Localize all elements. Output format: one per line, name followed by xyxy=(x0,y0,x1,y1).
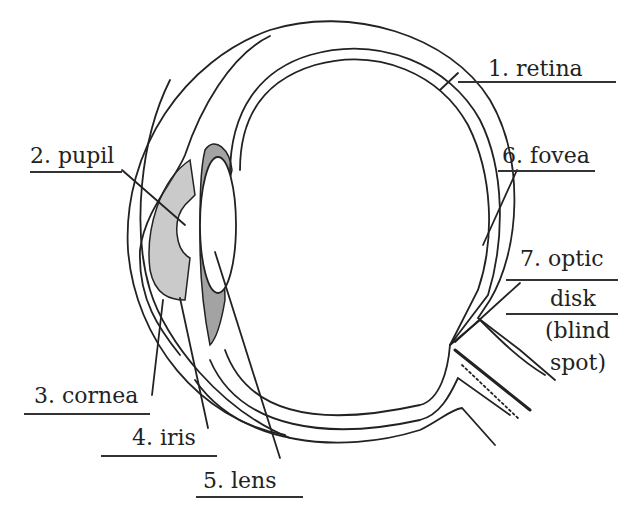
label-fovea: 6. fovea xyxy=(502,145,590,167)
lower-wall-1 xyxy=(225,345,450,415)
underline-optic xyxy=(506,279,618,281)
underline-retina xyxy=(458,81,616,83)
optic-nerve-center xyxy=(455,350,530,410)
label-optic-disk-line4: spot) xyxy=(550,352,606,374)
leader-iris xyxy=(180,298,208,428)
label-cornea: 3. cornea xyxy=(34,385,138,407)
underline-iris xyxy=(101,455,217,457)
label-optic-disk-line3: (blind xyxy=(545,320,610,342)
label-iris: 4. iris xyxy=(132,427,196,449)
iris-shape xyxy=(149,160,195,300)
retina-outer xyxy=(230,49,500,345)
label-pupil: 2. pupil xyxy=(30,145,114,167)
optic-nerve-lower xyxy=(462,365,520,420)
label-retina: 1. retina xyxy=(488,58,583,80)
lower-wall-3 xyxy=(195,380,495,445)
eye-diagram: 1. retina 2. pupil 3. cornea 4. iris 5. … xyxy=(0,0,639,519)
lower-wall-2 xyxy=(210,360,510,429)
underline-disk xyxy=(506,313,618,315)
label-optic-disk-line2: disk xyxy=(550,288,596,310)
underline-fovea xyxy=(498,170,595,172)
label-lens: 5. lens xyxy=(203,470,277,492)
underline-lens xyxy=(196,496,303,498)
lens-shape xyxy=(200,157,236,293)
underline-pupil xyxy=(30,171,122,173)
underline-cornea xyxy=(24,413,150,415)
retina-inner xyxy=(240,60,489,345)
label-optic-disk-line1: 7. optic xyxy=(520,248,604,270)
leader-lens xyxy=(215,252,280,458)
